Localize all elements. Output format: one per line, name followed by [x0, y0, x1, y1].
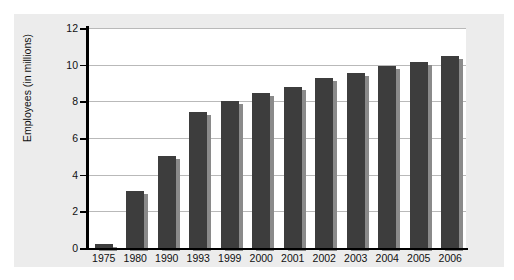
- x-axis-tick-label: 1990: [151, 252, 183, 266]
- bar-slot[interactable]: [95, 28, 113, 248]
- y-axis-tick-mark: [80, 65, 87, 67]
- y-axis-tick-label: 8: [40, 96, 78, 107]
- bar-slot[interactable]: [410, 28, 428, 248]
- y-axis-tick-label: 6: [40, 133, 78, 144]
- x-axis-tick-labels: 1975198019901993199920002001200220032004…: [88, 252, 466, 270]
- y-axis-title: Employees (in millions): [21, 3, 33, 173]
- bar-slot[interactable]: [315, 28, 333, 248]
- bar[interactable]: [252, 93, 270, 248]
- y-axis-tick-mark: [80, 175, 87, 177]
- y-axis-tick-mark: [80, 138, 87, 140]
- plot-area: [88, 28, 466, 248]
- bar-slot[interactable]: [378, 28, 396, 248]
- y-axis-tick-label: 2: [40, 206, 78, 217]
- x-axis-tick-label: 2002: [309, 252, 341, 266]
- bar[interactable]: [441, 56, 459, 249]
- bar[interactable]: [158, 156, 176, 248]
- bar-slot[interactable]: [347, 28, 365, 248]
- bar[interactable]: [315, 78, 333, 248]
- x-axis-tick-label: 2005: [403, 252, 435, 266]
- y-axis-tick-labels: 024681012: [40, 0, 78, 280]
- y-axis-tick-mark: [80, 101, 87, 103]
- y-axis-tick-mark: [80, 248, 87, 250]
- bar-slot[interactable]: [221, 28, 239, 248]
- bar-slot[interactable]: [126, 28, 144, 248]
- x-axis-tick-label: 2001: [277, 252, 309, 266]
- bar-slot[interactable]: [284, 28, 302, 248]
- bar-slot[interactable]: [252, 28, 270, 248]
- x-axis-spine: [86, 248, 468, 251]
- y-axis-tick-label: 4: [40, 170, 78, 181]
- bar[interactable]: [189, 112, 207, 248]
- bar-chart-figure: 024681012 Employees (in millions) 197519…: [0, 0, 514, 280]
- bar[interactable]: [221, 101, 239, 248]
- y-axis-tick-label: 12: [40, 23, 78, 34]
- y-axis-tick-label: 10: [40, 60, 78, 71]
- y-axis-tick-mark: [80, 28, 87, 30]
- x-axis-tick-label: 1975: [88, 252, 120, 266]
- x-axis-tick-label: 2000: [246, 252, 278, 266]
- x-axis-tick-label: 1993: [183, 252, 215, 266]
- bar-slot[interactable]: [189, 28, 207, 248]
- x-axis-tick-label: 2003: [340, 252, 372, 266]
- bar[interactable]: [284, 87, 302, 248]
- x-axis-tick-label: 1999: [214, 252, 246, 266]
- bar[interactable]: [378, 66, 396, 248]
- bar-slot[interactable]: [441, 28, 459, 248]
- y-axis-tick-mark: [80, 211, 87, 213]
- x-axis-tick-label: 2006: [435, 252, 467, 266]
- bar[interactable]: [410, 62, 428, 248]
- y-axis-tick-label: 0: [40, 243, 78, 254]
- bar-slot[interactable]: [158, 28, 176, 248]
- x-axis-tick-label: 2004: [372, 252, 404, 266]
- bar[interactable]: [347, 73, 365, 248]
- bar[interactable]: [126, 191, 144, 248]
- x-axis-tick-label: 1980: [120, 252, 152, 266]
